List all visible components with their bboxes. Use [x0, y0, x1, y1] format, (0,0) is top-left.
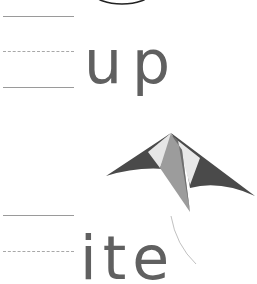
- trace-word: ite: [80, 218, 175, 284]
- guide-line-base: [3, 87, 74, 88]
- guide-line-top: [3, 16, 74, 17]
- kite-icon: [106, 133, 255, 212]
- guide-line-mid-dashed: [3, 51, 74, 52]
- oval-outline-icon: [95, 0, 149, 4]
- trace-word: up: [84, 22, 180, 102]
- guide-line-mid-dashed: [3, 251, 74, 252]
- guide-line-top: [3, 215, 74, 216]
